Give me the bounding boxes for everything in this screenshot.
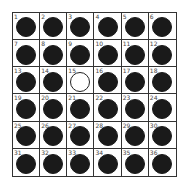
board-cell-5[interactable]: 5 [122,13,149,40]
board-cell-31[interactable]: 31 [13,149,40,176]
board-cell-4[interactable]: 4 [94,13,121,40]
filled-peg-icon[interactable] [16,126,36,146]
filled-peg-icon[interactable] [152,126,172,146]
filled-peg-icon[interactable] [16,99,36,119]
board-cell-12[interactable]: 12 [149,40,176,67]
board-cell-6[interactable]: 6 [149,13,176,40]
filled-peg-icon[interactable] [16,154,36,174]
filled-peg-icon[interactable] [43,45,63,65]
board-cell-24[interactable]: 24 [149,94,176,121]
cell-number-label: 1 [14,13,18,20]
empty-hole-icon[interactable] [70,72,90,92]
filled-peg-icon[interactable] [98,72,118,92]
board-cell-18[interactable]: 18 [149,67,176,94]
filled-peg-icon[interactable] [125,72,145,92]
board-cell-22[interactable]: 22 [94,94,121,121]
filled-peg-icon[interactable] [70,99,90,119]
filled-peg-icon[interactable] [125,17,145,37]
cell-number-label: 5 [123,13,127,20]
filled-peg-icon[interactable] [43,126,63,146]
filled-peg-icon[interactable] [43,99,63,119]
board-cell-21[interactable]: 21 [67,94,94,121]
board-cell-33[interactable]: 33 [67,149,94,176]
cell-number-label: 7 [14,40,18,47]
filled-peg-icon[interactable] [152,17,172,37]
board-cell-14[interactable]: 14 [40,67,67,94]
filled-peg-icon[interactable] [125,99,145,119]
filled-peg-icon[interactable] [125,154,145,174]
filled-peg-icon[interactable] [98,126,118,146]
cell-number-label: 8 [41,40,45,47]
filled-peg-icon[interactable] [70,126,90,146]
board-cell-1[interactable]: 1 [13,13,40,40]
cell-number-label: 3 [68,13,72,20]
peg-board: 1234567891011121314151617181920212223242… [12,12,177,177]
cell-number-label: 2 [41,13,45,20]
board-cell-23[interactable]: 23 [122,94,149,121]
board-cell-17[interactable]: 17 [122,67,149,94]
filled-peg-icon[interactable] [98,154,118,174]
cell-number-label: 6 [150,13,154,20]
filled-peg-icon[interactable] [70,17,90,37]
board-cell-3[interactable]: 3 [67,13,94,40]
board-cell-19[interactable]: 19 [13,94,40,121]
board-cell-16[interactable]: 16 [94,67,121,94]
board-cell-26[interactable]: 26 [40,122,67,149]
cell-number-label: 4 [95,13,99,20]
filled-peg-icon[interactable] [98,17,118,37]
filled-peg-icon[interactable] [98,45,118,65]
filled-peg-icon[interactable] [16,72,36,92]
board-cell-29[interactable]: 29 [122,122,149,149]
board-cell-32[interactable]: 32 [40,149,67,176]
filled-peg-icon[interactable] [16,17,36,37]
filled-peg-icon[interactable] [152,99,172,119]
board-cell-36[interactable]: 36 [149,149,176,176]
filled-peg-icon[interactable] [70,45,90,65]
board-cell-15[interactable]: 15 [67,67,94,94]
board-cell-35[interactable]: 35 [122,149,149,176]
board-cell-8[interactable]: 8 [40,40,67,67]
filled-peg-icon[interactable] [70,154,90,174]
filled-peg-icon[interactable] [43,154,63,174]
filled-peg-icon[interactable] [152,45,172,65]
board-cell-27[interactable]: 27 [67,122,94,149]
filled-peg-icon[interactable] [152,154,172,174]
board-cell-11[interactable]: 11 [122,40,149,67]
cell-number-label: 9 [68,40,72,47]
filled-peg-icon[interactable] [16,45,36,65]
filled-peg-icon[interactable] [98,99,118,119]
board-cell-9[interactable]: 9 [67,40,94,67]
board-cell-13[interactable]: 13 [13,67,40,94]
board-cell-20[interactable]: 20 [40,94,67,121]
board-cell-30[interactable]: 30 [149,122,176,149]
board-cell-25[interactable]: 25 [13,122,40,149]
filled-peg-icon[interactable] [125,45,145,65]
board-cell-28[interactable]: 28 [94,122,121,149]
filled-peg-icon[interactable] [152,72,172,92]
board-cell-7[interactable]: 7 [13,40,40,67]
board-cell-2[interactable]: 2 [40,13,67,40]
board-cell-10[interactable]: 10 [94,40,121,67]
board-cell-34[interactable]: 34 [94,149,121,176]
filled-peg-icon[interactable] [125,126,145,146]
filled-peg-icon[interactable] [43,17,63,37]
filled-peg-icon[interactable] [43,72,63,92]
